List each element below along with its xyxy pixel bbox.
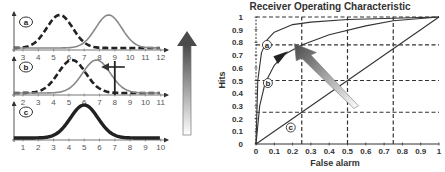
noise-distribution-curve (14, 15, 160, 48)
roc-y-tick-label: 0 (239, 140, 244, 149)
x-tick-label: 4 (51, 98, 56, 107)
sensitivity-arrow-icon (177, 31, 197, 135)
roc-x-tick-label: 0.8 (397, 147, 409, 156)
panel-label-a: a (20, 17, 33, 27)
panel-label-text: b (24, 63, 29, 72)
x-tick-label: 6 (97, 143, 102, 152)
x-tick-label: 3 (51, 143, 56, 152)
panel-label-c: c (20, 107, 33, 117)
x-tick-label: 7 (97, 98, 102, 107)
x-tick-label: 8 (128, 143, 133, 152)
figure: 3456789101112a 234567891011b 12345678910… (0, 0, 445, 172)
x-tick-label: 11 (157, 98, 166, 107)
roc-ylabel: Hits (217, 71, 227, 88)
roc-x-tick-label: 0.3 (305, 147, 317, 156)
roc-label-text: b (265, 79, 270, 88)
x-tick-label: 3 (21, 53, 26, 62)
curve-b-arrow-icon (273, 51, 288, 64)
x-tick-label: 4 (36, 53, 41, 62)
noise+signal (overlapping)-distribution-curve (14, 105, 160, 138)
roc-x-tick-label: 0.4 (324, 147, 336, 156)
roc-y-tick-label: 0.3 (232, 102, 244, 111)
panel-label-b: b (20, 62, 33, 72)
x-tick-label: 10 (141, 98, 150, 107)
roc-label-b: b (263, 79, 272, 88)
x-tick-label: 5 (82, 143, 87, 152)
roc-x-tick-label: 0.2 (287, 147, 299, 156)
roc-y-tick-label: 0.9 (232, 26, 244, 35)
x-tick-label: 5 (51, 53, 56, 62)
roc-y-tick-label: 0.2 (232, 115, 244, 124)
roc-title: Receiver Operating Characteristic (249, 1, 411, 12)
panel-label-text: a (24, 18, 29, 27)
roc-y-tick-label: 0.1 (232, 127, 244, 136)
x-tick-label: 10 (126, 53, 135, 62)
roc-x-tick-label: 0.9 (415, 147, 427, 156)
roc-y-tick-label: 0.8 (232, 38, 244, 47)
noise-distribution-curve (14, 60, 160, 93)
x-tick-label: 4 (67, 143, 72, 152)
x-tick-label: 5 (67, 98, 72, 107)
x-tick-label: 2 (36, 143, 41, 152)
roc-y-tick-label: 0.7 (232, 51, 244, 60)
x-tick-label: 9 (128, 98, 133, 107)
x-tick-label: 3 (36, 98, 41, 107)
x-tick-label: 12 (156, 53, 165, 62)
roc-x-tick-label: 0.6 (360, 147, 372, 156)
roc-chart: Receiver Operating Characteristic00.10.2… (217, 1, 442, 168)
roc-shift-arrow-icon (294, 44, 358, 109)
roc-x-tick-label: 0.7 (379, 147, 391, 156)
roc-xlabel: False alarm (310, 158, 360, 168)
x-tick-label: 7 (113, 143, 118, 152)
distribution-panel-c: 12345678910c (12, 102, 168, 152)
roc-x-tick-label: 0 (254, 147, 259, 156)
roc-label-a: a (262, 40, 271, 49)
x-tick-label: 9 (113, 53, 118, 62)
x-tick-label: 2 (21, 98, 26, 107)
x-tick-label: 8 (113, 98, 118, 107)
distribution-panel-a: 3456789101112a (12, 12, 168, 62)
roc-label-text: c (289, 123, 294, 132)
x-tick-label: 11 (141, 53, 150, 62)
x-tick-label: 9 (143, 143, 148, 152)
roc-x-tick-label: 0.1 (269, 147, 281, 156)
roc-y-tick-label: 0.5 (232, 77, 244, 86)
roc-x-tick-label: 1 (437, 147, 442, 156)
distribution-panel-b: 234567891011b (12, 57, 168, 107)
roc-label-c: c (286, 123, 295, 132)
roc-y-tick-label: 1 (239, 13, 244, 22)
roc-y-tick-label: 0.4 (232, 89, 244, 98)
roc-y-tick-label: 0.6 (232, 64, 244, 73)
x-tick-label: 1 (21, 143, 26, 152)
roc-x-tick-label: 0.5 (342, 147, 354, 156)
x-tick-label: 10 (156, 143, 165, 152)
panel-label-text: c (24, 108, 29, 117)
roc-label-text: a (265, 41, 270, 50)
x-tick-label: 7 (82, 53, 87, 62)
